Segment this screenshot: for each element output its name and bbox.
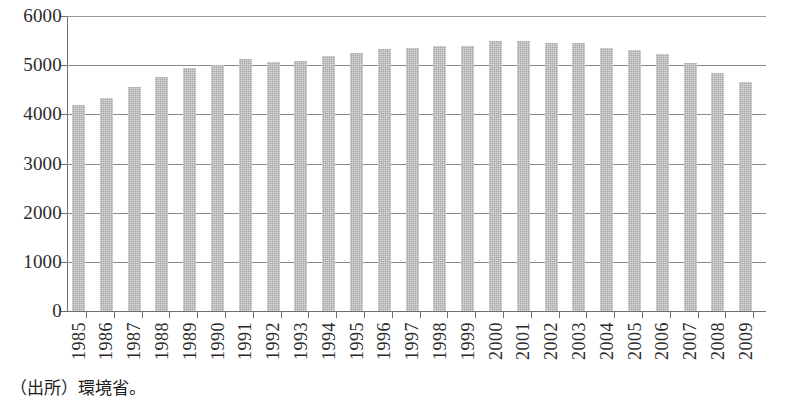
bar-chart: 6000500040003000200010000 19851986198719…: [0, 0, 799, 410]
bar-1993: [294, 61, 307, 311]
bar-2004: [600, 48, 613, 311]
bar-1996: [378, 49, 391, 311]
x-tick-label-1990: 1990: [209, 322, 227, 360]
x-tick-mark-1992: [281, 311, 282, 318]
bar-1986: [100, 98, 113, 311]
bar-2006: [656, 54, 669, 311]
x-tick-mark-2007: [698, 311, 699, 318]
x-tick-label-2002: 2002: [542, 322, 560, 360]
x-tick-label-2004: 2004: [598, 322, 616, 360]
x-tick-mark-1999: [475, 311, 476, 318]
bar-2007: [684, 63, 697, 311]
bar-2009: [739, 82, 752, 311]
bar-1997: [406, 48, 419, 311]
x-tick-mark-1997: [420, 311, 421, 318]
x-tick-mark-1995: [364, 311, 365, 318]
x-tick-label-2001: 2001: [514, 322, 532, 360]
x-tick-label-1998: 1998: [431, 322, 449, 360]
x-tick-mark-2003: [586, 311, 587, 318]
x-tick-label-2005: 2005: [626, 322, 644, 360]
x-tick-label-1987: 1987: [125, 322, 143, 360]
x-tick-label-2003: 2003: [570, 322, 588, 360]
x-tick-mark-1991: [253, 311, 254, 318]
x-tick-mark-1998: [447, 311, 448, 318]
y-tick-label-4000: 4000: [23, 104, 62, 123]
x-tick-label-2006: 2006: [653, 322, 671, 360]
bar-1985: [72, 105, 85, 312]
y-tick-label-6000: 6000: [23, 6, 62, 25]
x-tick-mark-2000: [503, 311, 504, 318]
x-tick-label-1999: 1999: [459, 322, 477, 360]
y-tick-label-2000: 2000: [23, 203, 62, 222]
x-tick-label-1995: 1995: [348, 322, 366, 360]
x-tick-mark-2002: [559, 311, 560, 318]
bar-1991: [239, 59, 252, 311]
bar-1988: [155, 77, 168, 311]
bar-1992: [267, 62, 280, 311]
x-tick-label-2000: 2000: [487, 322, 505, 360]
bar-2001: [517, 41, 530, 311]
x-tick-label-1991: 1991: [236, 322, 254, 360]
bar-2003: [572, 43, 585, 311]
x-tick-mark-1994: [336, 311, 337, 318]
x-tick-label-1996: 1996: [375, 322, 393, 360]
x-tick-mark-2009: [753, 311, 754, 318]
bar-1999: [461, 46, 474, 312]
bar-1994: [322, 56, 335, 311]
x-tick-mark-1985: [86, 311, 87, 318]
x-tick-label-1985: 1985: [70, 322, 88, 360]
x-tick-mark-1987: [142, 311, 143, 318]
y-tick-label-1000: 1000: [23, 252, 62, 271]
bar-1990: [211, 65, 224, 311]
x-tick-label-2009: 2009: [737, 322, 755, 360]
x-tick-label-1989: 1989: [181, 322, 199, 360]
x-tick-label-1997: 1997: [403, 322, 421, 360]
x-tick-mark-2004: [614, 311, 615, 318]
gridline-6000: [67, 16, 766, 17]
x-tick-label-1992: 1992: [264, 322, 282, 360]
y-tick-mark-0: [61, 311, 68, 312]
x-tick-mark-1988: [169, 311, 170, 318]
x-tick-mark-1993: [308, 311, 309, 318]
x-tick-mark-2005: [642, 311, 643, 318]
x-tick-label-1986: 1986: [97, 322, 115, 360]
bar-2008: [711, 73, 724, 311]
x-tick-mark-2006: [670, 311, 671, 318]
source-note: （出所）環境省。: [10, 378, 146, 400]
x-tick-label-2007: 2007: [681, 322, 699, 360]
x-tick-label-1988: 1988: [153, 322, 171, 360]
bar-1987: [128, 87, 141, 311]
bar-2002: [545, 43, 558, 311]
x-tick-label-2008: 2008: [709, 322, 727, 360]
x-axis-line: [67, 311, 766, 312]
y-tick-label-0: 0: [52, 301, 62, 320]
y-tick-label-5000: 5000: [23, 55, 62, 74]
bar-2000: [489, 41, 502, 311]
y-tick-label-3000: 3000: [23, 154, 62, 173]
x-tick-mark-1989: [197, 311, 198, 318]
plot-area: [67, 16, 766, 311]
bar-1989: [183, 68, 196, 311]
x-tick-mark-2001: [531, 311, 532, 318]
x-tick-mark-1990: [225, 311, 226, 318]
bar-1995: [350, 53, 363, 311]
x-tick-mark-1996: [392, 311, 393, 318]
x-tick-label-1994: 1994: [320, 322, 338, 360]
bar-1998: [433, 46, 446, 312]
x-tick-label-1993: 1993: [292, 322, 310, 360]
bar-2005: [628, 50, 641, 311]
x-tick-mark-1986: [114, 311, 115, 318]
x-tick-mark-2008: [725, 311, 726, 318]
